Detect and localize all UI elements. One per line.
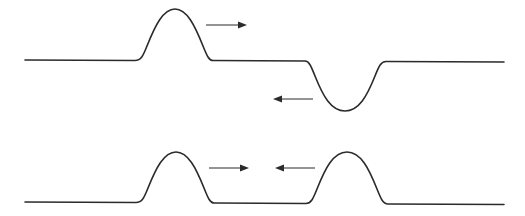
arrow-left-icon [273, 96, 313, 103]
bottom-string-wave [25, 152, 504, 205]
arrow-right-icon [206, 22, 247, 29]
top-string-panel [25, 9, 504, 111]
top-string-wave [25, 9, 504, 111]
bottom-string-panel [25, 152, 504, 205]
arrow-left-icon [275, 165, 315, 172]
arrow-right-icon [209, 165, 249, 172]
wave-pulse-diagram [0, 0, 525, 216]
